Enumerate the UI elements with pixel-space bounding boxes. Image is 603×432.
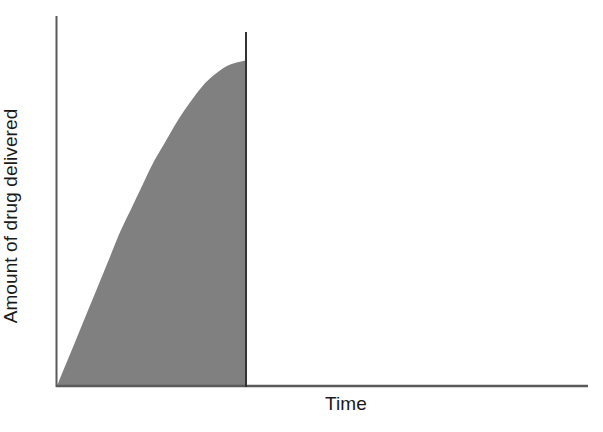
drug-delivery-area: [57, 60, 246, 386]
area-chart-canvas: [0, 0, 603, 432]
chart-figure: Amount of drug delivered Time: [0, 0, 603, 432]
